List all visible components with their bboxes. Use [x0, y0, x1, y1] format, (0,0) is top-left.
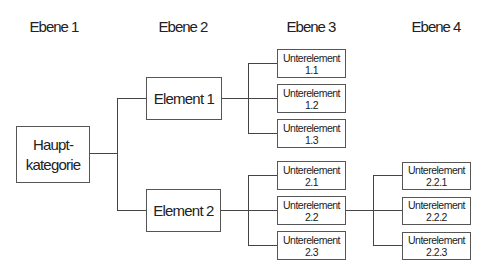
connector [248, 63, 249, 133]
node-label: Unterelement [283, 234, 340, 246]
node-label: Unterelement [408, 234, 465, 246]
node-number: 2.2.2 [426, 211, 447, 223]
connector [373, 175, 374, 245]
node-unterelement-2-2-2: Unterelement2.2.2 [402, 197, 471, 225]
node-label: Unterelement [283, 87, 340, 99]
header-ebene-1: Ebene 1 [14, 18, 94, 35]
connector [248, 175, 277, 176]
connector [248, 133, 277, 134]
connector [221, 98, 277, 99]
connector [248, 245, 277, 246]
connector [248, 175, 249, 245]
node-number: 1.3 [305, 134, 318, 146]
node-label: Unterelement [408, 164, 465, 176]
node-label: Unterelement [283, 122, 340, 134]
node-element-1: Element 1 [146, 77, 222, 120]
node-label: Unterelement [283, 199, 340, 211]
node-unterelement-2-2-1: Unterelement2.2.1 [402, 162, 471, 190]
node-label: Element 2 [153, 201, 213, 221]
node-label: Element 1 [154, 89, 214, 109]
node-number: 2.2.1 [426, 176, 447, 188]
node-label: kategorie [26, 155, 81, 175]
node-label: Unterelement [408, 199, 465, 211]
node-unterelement-1-3: Unterelement1.3 [277, 119, 346, 148]
node-number: 1.1 [305, 64, 318, 76]
connector [89, 153, 117, 154]
connector [373, 175, 402, 176]
node-unterelement-2-2: Unterelement2.2 [277, 196, 346, 225]
node-number: 2.1 [305, 176, 318, 188]
node-unterelement-2-1: Unterelement2.1 [277, 161, 346, 190]
header-ebene-3: Ebene 3 [271, 18, 351, 35]
node-hauptkategorie: Haupt- kategorie [16, 126, 90, 183]
header-ebene-2: Ebene 2 [143, 18, 223, 35]
node-number: 2.2 [305, 211, 318, 223]
node-unterelement-1-1: Unterelement1.1 [277, 49, 346, 78]
connector [373, 245, 402, 246]
node-unterelement-1-2: Unterelement1.2 [277, 84, 346, 113]
node-number: 1.2 [305, 99, 318, 111]
node-label: Unterelement [283, 52, 340, 64]
connector [117, 98, 146, 99]
node-unterelement-2-3: Unterelement2.3 [277, 231, 346, 260]
node-label: Unterelement [283, 164, 340, 176]
connector [117, 98, 118, 211]
node-element-2: Element 2 [146, 189, 221, 232]
node-label: Haupt- [33, 135, 73, 155]
connector [117, 210, 146, 211]
node-number: 2.2.3 [426, 246, 447, 258]
connector [248, 63, 277, 64]
node-number: 2.3 [305, 246, 318, 258]
node-unterelement-2-2-3: Unterelement2.2.3 [402, 232, 471, 260]
header-ebene-4: Ebene 4 [396, 18, 476, 35]
